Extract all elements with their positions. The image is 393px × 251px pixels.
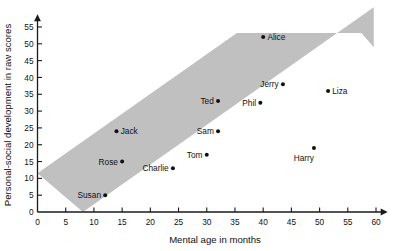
x-tick-label: 25 — [174, 217, 184, 227]
data-point-label: Tom — [187, 150, 203, 160]
data-point[interactable]: Harry — [294, 146, 316, 163]
x-axis-title: Mental age in months — [169, 234, 261, 245]
x-tick-label: 30 — [202, 217, 212, 227]
data-point[interactable]: Charlie — [142, 163, 174, 173]
x-tick-label: 20 — [146, 217, 156, 227]
x-tick-group — [66, 208, 376, 213]
data-point-marker — [326, 89, 330, 93]
y-ticklabel-group: 0510152025303540455055 — [24, 22, 34, 217]
y-tick-label: 30 — [24, 106, 34, 116]
x-tick-label: 5 — [63, 217, 68, 227]
y-axis-arrow — [34, 14, 41, 21]
data-point[interactable]: Sam — [197, 126, 220, 136]
y-tick-label: 10 — [24, 173, 34, 183]
data-point-marker — [120, 160, 124, 164]
y-tick-label: 35 — [24, 89, 34, 99]
data-point-marker — [261, 35, 265, 39]
y-tick-label: 40 — [24, 73, 34, 83]
data-point-marker — [103, 193, 107, 197]
data-point[interactable]: Tom — [187, 150, 209, 160]
data-point-marker — [216, 99, 220, 103]
data-point[interactable]: Phil — [242, 98, 262, 108]
x-ticklabel-group: 051015202530354045505560 — [35, 217, 381, 227]
y-tick-label: 25 — [24, 123, 34, 133]
y-tick-group — [38, 27, 43, 195]
data-point-label: Alice — [267, 32, 285, 42]
data-point-marker — [258, 101, 262, 105]
y-tick-label: 45 — [24, 56, 34, 66]
x-tick-label: 10 — [89, 217, 99, 227]
data-point-label: Susan — [77, 190, 101, 200]
data-point-marker — [171, 166, 175, 170]
x-tick-label: 0 — [35, 217, 40, 227]
shaded-band-group — [38, 7, 374, 212]
x-tick-label: 40 — [259, 217, 269, 227]
data-point-label: Ted — [200, 96, 214, 106]
y-axis-title: Personal-social development in raw score… — [2, 24, 13, 207]
shaded-band — [38, 7, 374, 212]
scatter-chart: 051015202530354045505560 051015202530354… — [0, 0, 393, 251]
data-point-label: Jerry — [260, 79, 279, 89]
x-tick-label: 35 — [230, 217, 240, 227]
data-point-label: Charlie — [142, 163, 169, 173]
data-point-marker — [114, 129, 118, 133]
y-tick-label: 20 — [24, 140, 34, 150]
data-point[interactable]: Jerry — [260, 79, 285, 89]
x-axis-arrow — [381, 209, 388, 216]
y-tick-label: 5 — [29, 190, 34, 200]
x-tick-label: 45 — [287, 217, 297, 227]
data-point[interactable]: Liza — [326, 86, 348, 96]
x-tick-label: 55 — [343, 217, 353, 227]
data-point-label: Jack — [121, 126, 139, 136]
data-point-marker — [281, 82, 285, 86]
plot-area: 051015202530354045505560 051015202530354… — [0, 0, 393, 251]
data-point-marker — [205, 153, 209, 157]
data-point-label: Liza — [332, 86, 348, 96]
y-tick-label: 55 — [24, 22, 34, 32]
data-point-marker — [312, 146, 316, 150]
data-point-label: Harry — [294, 153, 315, 163]
data-point-label: Phil — [242, 98, 256, 108]
data-point-marker — [216, 129, 220, 133]
y-tick-label: 50 — [24, 39, 34, 49]
data-point-label: Rose — [99, 157, 119, 167]
x-tick-label: 15 — [118, 217, 128, 227]
x-tick-label: 50 — [315, 217, 325, 227]
x-tick-label: 60 — [371, 217, 381, 227]
y-tick-label: 0 — [29, 207, 34, 217]
data-point-label: Sam — [197, 126, 214, 136]
y-tick-label: 15 — [24, 157, 34, 167]
